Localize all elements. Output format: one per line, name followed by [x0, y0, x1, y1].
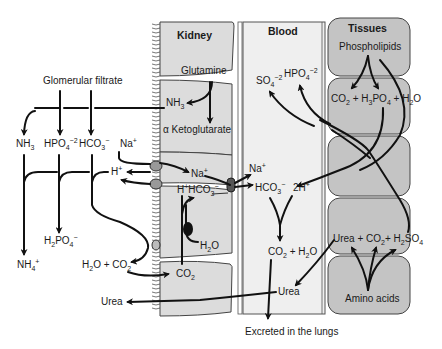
hco3-blood-label: HCO3− [255, 181, 285, 195]
hpo4-filtrate-label: HPO4−2 [44, 137, 78, 151]
alpha-ketoglutarate-label: α Ketoglutarate [163, 124, 231, 135]
nh3-filtrate-label: NH3 [16, 138, 34, 151]
glutamine-label: Glutamine [181, 65, 227, 76]
kidney-cell-2 [160, 80, 232, 155]
amino-acids-label: Amino acids [345, 293, 399, 304]
acid-base-diagram: Kidney Blood Tissues Glomerular filtrate… [0, 0, 442, 349]
tissue-cell-4 [328, 198, 410, 254]
hco3-filtrate-label: HCO3− [79, 137, 109, 151]
h-plus-filtrate-label: H+ [111, 165, 122, 177]
carbonic-anhydrase-dot [183, 222, 193, 236]
excreted-lungs-label: Excreted in the lungs [245, 326, 338, 337]
blood-heading: Blood [268, 25, 298, 37]
h-pump [150, 179, 162, 189]
urea-blood-label: Urea [278, 286, 300, 297]
carbonic-anhydrase-luminal [152, 240, 160, 250]
kidney-cell-5 [160, 261, 232, 316]
h-hco3-cell-label: H+HCO3− [177, 183, 219, 197]
h2po4-label: H2PO4− [44, 234, 78, 248]
na-filtrate-label: Na+ [120, 137, 137, 149]
tissues-heading: Tissues [348, 22, 387, 34]
glomerular-filtrate-label: Glomerular filtrate [43, 75, 123, 86]
phospholipids-label: Phospholipids [339, 41, 401, 52]
kidney-heading: Kidney [177, 29, 212, 41]
kidney-cell-4 [160, 186, 232, 258]
urea-out-label: Urea [101, 296, 123, 307]
h2o-co2-lumen-label: H2O + CO2 [82, 259, 131, 272]
nh4-label: NH4+ [17, 258, 39, 272]
